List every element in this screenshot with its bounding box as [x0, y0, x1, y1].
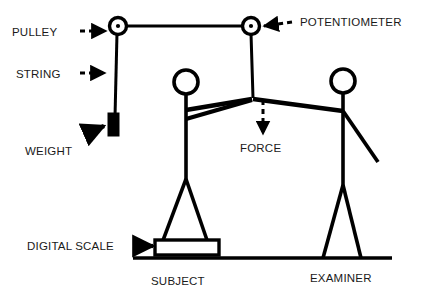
left-pulley-hub-icon: [116, 24, 120, 28]
examiner-figure: [253, 69, 378, 258]
ground-and-scale: [133, 240, 392, 258]
label-examiner: EXAMINER: [310, 272, 372, 284]
diagram-canvas: PULLEY STRING WEIGHT POTENTIOMETER FORCE…: [0, 0, 427, 302]
weight-block: [108, 113, 119, 136]
weight-arrow-icon: [88, 126, 104, 133]
scale-platform: [155, 240, 219, 255]
subject-left-leg: [162, 179, 186, 243]
label-subject: SUBJECT: [151, 275, 205, 287]
vertical-string-segment: [115, 33, 117, 117]
examiner-right-leg: [343, 185, 361, 258]
examiner-left-leg: [323, 185, 343, 258]
examiner-right-arm: [343, 111, 378, 162]
label-pulley: PULLEY: [12, 26, 57, 38]
label-potentiometer: POTENTIOMETER: [300, 16, 402, 28]
label-force: FORCE: [240, 142, 281, 154]
examiner-head: [331, 69, 355, 93]
right-pulley-hub-icon: [249, 24, 253, 28]
right-string-segment: [251, 33, 253, 98]
examiner-left-arm: [253, 99, 343, 111]
subject-figure: [162, 70, 252, 243]
label-digital-scale: DIGITAL SCALE: [27, 240, 114, 252]
label-weight: WEIGHT: [25, 145, 72, 157]
label-string: STRING: [16, 68, 61, 80]
subject-head: [174, 70, 198, 94]
force-apparatus-diagram: PULLEY STRING WEIGHT POTENTIOMETER FORCE…: [0, 0, 427, 302]
subject-right-leg: [186, 179, 208, 243]
potentiometer-arrow-icon: [264, 22, 292, 26]
